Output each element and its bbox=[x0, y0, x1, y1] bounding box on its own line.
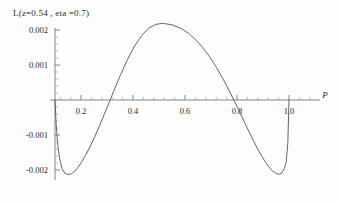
y-tick-label-1: 0.001 bbox=[29, 60, 48, 70]
x-tick-label-2: 0.6 bbox=[180, 106, 191, 116]
x-axis-label: P bbox=[321, 90, 328, 100]
y-tick-label-2: -0.001 bbox=[26, 130, 48, 140]
x-tick-label-1: 0.4 bbox=[128, 106, 139, 116]
y-tick-label-0: 0.002 bbox=[29, 25, 48, 35]
line-chart: 0.002 0.001 -0.001 -0.002 0.2 0.4 0.6 0.… bbox=[0, 0, 340, 204]
chart-container: L(z=0.54 , eta =0.7) bbox=[0, 0, 340, 204]
y-tick-label-3: -0.002 bbox=[26, 165, 48, 175]
x-tick-label-0: 0.2 bbox=[76, 106, 87, 116]
data-series-line bbox=[55, 23, 289, 174]
